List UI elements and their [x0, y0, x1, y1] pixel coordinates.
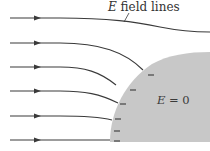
interior-field-label: E = 0 [157, 93, 190, 107]
field-line-5 [10, 116, 112, 120]
arrow-icon [34, 16, 41, 21]
field-line-4 [10, 91, 118, 103]
field-lines-diagram [0, 0, 210, 151]
arrowheads [34, 16, 41, 143]
field-lines-text: field lines [117, 0, 180, 14]
field-lines-label: E field lines [108, 0, 180, 14]
arrow-icon [34, 65, 41, 70]
field-line-3 [10, 67, 116, 85]
arrow-icon [34, 41, 41, 46]
arrow-icon [34, 138, 41, 143]
field-symbol: E [108, 0, 117, 14]
label-leader-line [124, 13, 129, 22]
arrow-icon [34, 89, 41, 94]
field-line-2 [10, 43, 143, 70]
interior-field-value: = 0 [165, 93, 189, 107]
field-line-1 [10, 18, 210, 32]
arrow-icon [34, 114, 41, 119]
